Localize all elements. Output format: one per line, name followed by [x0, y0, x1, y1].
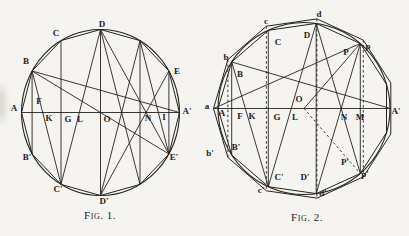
fig2-line-O-Pp: [304, 109, 360, 174]
fig2-label-C': C': [275, 172, 284, 182]
fig2-label-K: K: [248, 111, 255, 121]
fig1-label-B: B: [23, 56, 29, 66]
diagram-stage: ABCDEA'E'D'C'B'FKGLONIabcdpA'p'd'c'b'ABC…: [0, 0, 409, 236]
fig1-line-D-Qp: [101, 30, 141, 185]
fig2-label-G: G: [273, 112, 280, 122]
fig1-label-D': D': [100, 196, 109, 206]
fig2-label-L: L: [292, 112, 298, 122]
figure1-caption: Fig. 1.: [60, 209, 140, 221]
fig1-line-Q-Ep: [140, 41, 169, 154]
fig2-label-B: B: [237, 69, 243, 79]
fig1-label-A: A: [11, 103, 18, 113]
fig2-label-N: N: [341, 112, 348, 122]
fig2-label-P': P': [341, 157, 349, 167]
fig1-label-L: L: [77, 114, 83, 124]
fig2-label-c: c: [264, 16, 268, 26]
fig2-label-B': B': [232, 142, 241, 152]
fig2-label-p': p': [361, 169, 369, 179]
fig2-line-P-Dp: [316, 44, 360, 194]
fig2-label-b': b': [206, 148, 214, 158]
fig2-label-A: A: [219, 108, 226, 118]
fig2-label-D': D': [301, 172, 310, 182]
fig2-line-B-Cp: [232, 62, 269, 187]
fig2-label-p: p: [365, 41, 370, 51]
fig2-label-b: b: [223, 52, 228, 62]
fig2-label-F: F: [237, 111, 243, 121]
fig1-label-I: I: [162, 112, 166, 122]
fig2-label-D: D: [304, 30, 311, 40]
fig2-line-P-O: [304, 44, 360, 109]
fig1-line-B-Cp: [32, 71, 61, 184]
fig1-label-F: F: [36, 96, 42, 106]
fig2-label-d': d': [319, 188, 327, 198]
fig2-line-D-Pp: [316, 23, 360, 173]
fig2-label-c': c': [258, 185, 265, 195]
fig1-label-B': B': [23, 152, 32, 162]
fig2-label-O: O: [295, 94, 302, 104]
fig1-label-N: N: [145, 113, 152, 123]
fig2-label-d: d: [316, 9, 321, 19]
figure2-caption: Fig. 2.: [267, 211, 347, 223]
fig2-line-B-Ar: [232, 62, 391, 109]
fig1-label-O: O: [103, 114, 110, 124]
fig1-label-C: C: [53, 28, 60, 38]
geometry-canvas: ABCDEA'E'D'C'B'FKGLONIabcdpA'p'd'c'b'ABC…: [0, 0, 409, 236]
fig2-label-A': A': [392, 106, 401, 116]
fig1-label-C': C': [54, 184, 63, 194]
fig1-label-K: K: [45, 113, 52, 123]
fig2-label-C: C: [275, 37, 282, 47]
fig2-label-P: P: [343, 47, 349, 57]
fig1-line-D-Ep: [101, 30, 169, 155]
fig2-label-a: a: [205, 101, 210, 111]
fig2-line-D-Cp: [268, 23, 316, 186]
fig1-label-A': A': [183, 106, 192, 116]
fig1-label-E': E': [170, 152, 179, 162]
fig1-label-G: G: [64, 114, 71, 124]
fig1-label-E: E: [174, 66, 180, 76]
fig1-label-D: D: [99, 19, 106, 29]
fig2-label-M: M: [356, 112, 365, 122]
fig1-line-D-Cp: [61, 30, 101, 185]
